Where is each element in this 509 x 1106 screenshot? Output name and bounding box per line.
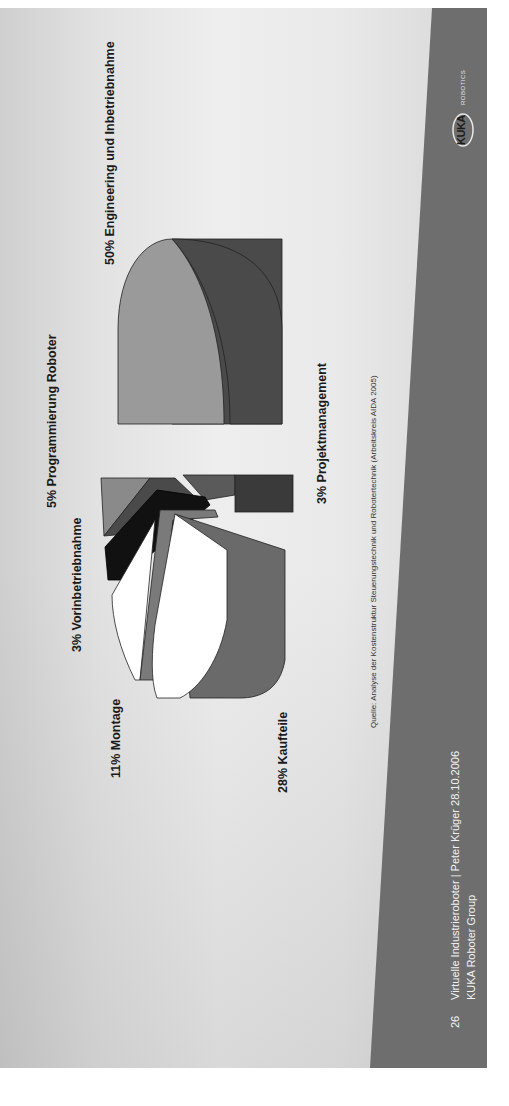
source-citation: Quelle: Analyse der Kostenstruktur Steue…	[369, 375, 378, 728]
slice-kaufteile	[152, 514, 285, 698]
label-engineering: 50% Engineering und Inbetriebnahme	[103, 41, 117, 265]
footer-title: Virtuelle Industrieroboter | Peter Krüge…	[449, 751, 461, 1000]
label-programmierung: 5% Programmierung Roboter	[45, 334, 59, 508]
kuka-logo-subtext: ROBOTICS	[460, 70, 466, 105]
kuka-logo: KUKA	[455, 115, 467, 145]
label-projektmanagement: 3% Projektmanagement	[315, 363, 329, 504]
page-number: 26	[449, 1016, 461, 1028]
label-kaufteile: 28% Kaufteile	[276, 712, 290, 793]
slice-engineering	[118, 239, 282, 424]
footer-company: KUKA Roboter Group	[465, 895, 477, 1000]
label-vorinbetriebnahme: 3% Vorinbetriebnahme	[70, 517, 84, 652]
label-montage: 11% Montage	[109, 699, 123, 778]
